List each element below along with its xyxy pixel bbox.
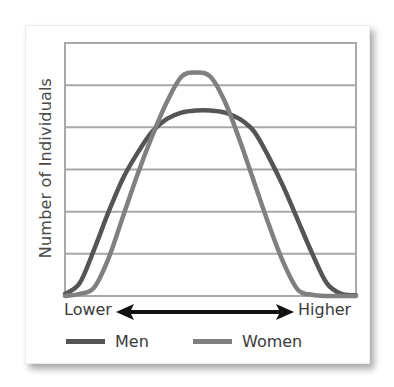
x-axis-lower-label: Lower — [64, 300, 112, 319]
legend-swatch-men — [66, 339, 105, 344]
x-axis-arrow — [116, 304, 294, 320]
legend-item-women: Women — [193, 331, 302, 351]
series-line-women — [65, 72, 356, 296]
legend-item-men: Men — [66, 331, 149, 351]
series-line-men — [65, 110, 356, 295]
legend-swatch-women — [193, 339, 232, 344]
plot-area — [0, 0, 394, 387]
legend-label-women: Women — [242, 332, 302, 351]
y-axis-label: Number of Individuals — [36, 78, 55, 258]
x-axis-higher-label: Higher — [298, 300, 351, 319]
series-lines — [65, 72, 356, 296]
legend-label-men: Men — [115, 332, 149, 351]
